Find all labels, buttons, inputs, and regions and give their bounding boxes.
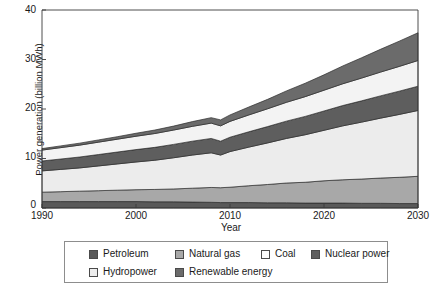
legend-swatch-coal: [261, 250, 270, 259]
legend-entry-petroleum[interactable]: Petroleum: [89, 249, 149, 259]
legend-swatch-hydropower: [89, 268, 98, 277]
area-chart-plot: [0, 0, 436, 230]
legend-entry-renewable-energy[interactable]: Renewable energy: [175, 267, 272, 277]
legend-label-hydropower: Hydropower: [103, 267, 157, 277]
legend-label-nuclear-power: Nuclear power: [325, 249, 389, 259]
legend-swatch-petroleum: [89, 250, 98, 259]
chart-legend: Petroleum Natural gas Coal Nuclear power…: [64, 241, 388, 283]
legend-row-bottom: Hydropower Renewable energy: [65, 263, 387, 281]
legend-swatch-renewable-energy: [175, 268, 184, 277]
stacked-areas-group: [42, 33, 418, 208]
legend-label-renewable-energy: Renewable energy: [189, 267, 272, 277]
legend-label-natural-gas: Natural gas: [189, 249, 240, 259]
legend-swatch-nuclear-power: [311, 250, 320, 259]
legend-entry-natural-gas[interactable]: Natural gas: [175, 249, 240, 259]
legend-entry-hydropower[interactable]: Hydropower: [89, 267, 157, 277]
legend-entry-coal[interactable]: Coal: [261, 249, 296, 259]
legend-label-coal: Coal: [275, 249, 296, 259]
legend-swatch-natural-gas: [175, 250, 184, 259]
legend-row-top: Petroleum Natural gas Coal Nuclear power: [65, 245, 387, 263]
figure-container: Power generation (billion MWh) 40 30 20 …: [0, 0, 436, 290]
legend-entry-nuclear-power[interactable]: Nuclear power: [311, 249, 389, 259]
legend-label-petroleum: Petroleum: [103, 249, 149, 259]
